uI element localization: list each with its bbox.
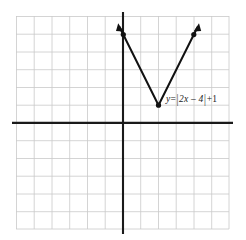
equation-equals: = xyxy=(170,94,176,104)
curve-right-arrowhead xyxy=(194,23,202,31)
curve-left-arm xyxy=(120,27,159,105)
point-marker-left xyxy=(121,32,126,37)
graph-figure: y=|2x – 4|+1 xyxy=(0,0,246,240)
equation-constant: 1 xyxy=(212,94,217,104)
equation-open-bar: | xyxy=(176,93,178,106)
equation-label: y=|2x – 4|+1 xyxy=(166,95,217,105)
point-marker-vertex xyxy=(156,103,161,108)
equation-close-bar: | xyxy=(204,93,206,106)
equation-inner-expression: 2x – 4 xyxy=(179,94,203,104)
coordinate-plane xyxy=(0,0,246,240)
point-marker-right xyxy=(191,32,196,37)
